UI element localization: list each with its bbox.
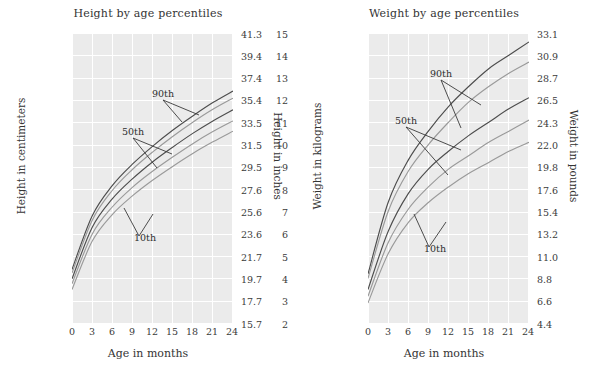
xtick-weight-3: 9 (418, 327, 438, 337)
ytick-right-weight-4: 24.3 (537, 119, 558, 129)
percentile-curve-50th (72, 110, 233, 279)
ytick-left-weight-6: 9 (282, 163, 288, 173)
ytick-right-weight-3: 26.5 (537, 96, 558, 106)
chart-title-weight: Weight by age percentiles (296, 7, 592, 20)
xtick-height-3: 9 (122, 327, 142, 337)
ytick-right-height-5: 31.5 (241, 141, 262, 151)
ytick-right-weight-13: 4.4 (537, 320, 552, 330)
ytick-left-weight-4: 11 (276, 119, 288, 129)
ytick-right-height-11: 19.7 (241, 275, 262, 285)
xtick-height-7: 21 (202, 327, 222, 337)
ytick-right-weight-8: 15.4 (537, 208, 558, 218)
ytick-left-weight-2: 13 (276, 74, 288, 84)
ytick-right-weight-11: 8.8 (537, 275, 552, 285)
ytick-left-weight-8: 7 (282, 208, 288, 218)
xtick-height-8: 24 (222, 327, 242, 337)
annotation-90th-height: 90th (152, 88, 174, 99)
ytick-right-height-3: 35.4 (241, 96, 262, 106)
ytick-right-height-8: 25.6 (241, 208, 262, 218)
xtick-weight-4: 12 (438, 327, 458, 337)
xtick-weight-1: 3 (378, 327, 398, 337)
xtick-height-5: 15 (162, 327, 182, 337)
chart-panel-weight: Weight by age percentiles (296, 0, 592, 377)
ytick-right-weight-9: 13.2 (537, 230, 558, 240)
ytick-right-weight-10: 11.0 (537, 253, 558, 263)
yaxis-label-right-height: Height in inches (272, 91, 284, 221)
growth-charts-figure: Height by age percentiles (0, 0, 592, 377)
percentile-curves-height (72, 33, 233, 323)
xtick-height-2: 6 (102, 327, 122, 337)
percentile-curve-25th (72, 121, 233, 284)
ytick-left-weight-7: 8 (282, 186, 288, 196)
xtick-weight-5: 15 (458, 327, 478, 337)
xtick-height-0: 0 (62, 327, 82, 337)
xtick-height-6: 18 (182, 327, 202, 337)
percentile-curve-25th (368, 120, 529, 296)
ytick-right-weight-2: 28.7 (537, 74, 558, 84)
xtick-weight-2: 6 (398, 327, 418, 337)
ytick-left-weight-5: 10 (276, 141, 288, 151)
ytick-left-weight-9: 6 (282, 230, 288, 240)
ytick-right-height-12: 17.7 (241, 297, 262, 307)
ytick-left-weight-12: 3 (282, 297, 288, 307)
ytick-right-weight-1: 30.9 (537, 52, 558, 62)
ytick-right-height-10: 21.7 (241, 253, 262, 263)
ytick-right-weight-7: 17.6 (537, 186, 558, 196)
ytick-left-weight-0: 15 (276, 30, 288, 40)
xtick-weight-6: 18 (478, 327, 498, 337)
ytick-right-height-4: 33.5 (241, 119, 262, 129)
ytick-right-weight-12: 6.6 (537, 297, 552, 307)
xtick-height-4: 12 (142, 327, 162, 337)
ytick-right-height-2: 37.4 (241, 74, 262, 84)
xaxis-label-height: Age in months (0, 347, 296, 360)
xtick-weight-0: 0 (358, 327, 378, 337)
ytick-right-height-6: 29.5 (241, 163, 262, 173)
ytick-right-height-0: 41.3 (241, 30, 262, 40)
percentile-curve-10th (72, 131, 233, 289)
chart-panel-height: Height by age percentiles (0, 0, 296, 377)
ytick-left-weight-1: 14 (276, 52, 288, 62)
annotation-90th-weight: 90th (430, 68, 452, 79)
yaxis-label-left-height: Height in centimeters (15, 91, 27, 221)
ytick-right-height-7: 27.6 (241, 186, 262, 196)
yaxis-label-right-weight: Weight in pounds (568, 91, 580, 221)
ytick-right-weight-6: 19.8 (537, 163, 558, 173)
ytick-left-weight-13: 2 (282, 320, 288, 330)
xtick-height-1: 3 (82, 327, 102, 337)
ytick-left-weight-3: 12 (276, 96, 288, 106)
ytick-right-height-1: 39.4 (241, 52, 262, 62)
ytick-right-weight-0: 33.1 (537, 30, 558, 40)
ytick-left-weight-10: 5 (282, 253, 288, 263)
annotation-10th-weight: 10th (424, 243, 446, 254)
ytick-left-weight-11: 4 (282, 275, 288, 285)
ytick-right-height-13: 15.7 (241, 320, 262, 330)
chart-title-height: Height by age percentiles (0, 7, 296, 20)
xtick-weight-8: 24 (518, 327, 538, 337)
annotation-50th-weight: 50th (395, 115, 417, 126)
plot-area-height (72, 33, 233, 323)
ytick-right-weight-5: 22.0 (537, 141, 558, 151)
percentile-curve-90th (72, 98, 233, 273)
annotation-10th-height: 10th (134, 232, 156, 243)
yaxis-label-left-weight: Weight in kilograms (311, 91, 323, 221)
xtick-weight-7: 21 (498, 327, 518, 337)
ytick-right-height-9: 23.6 (241, 230, 262, 240)
xaxis-label-weight: Age in months (296, 347, 592, 360)
annotation-50th-height: 50th (122, 126, 144, 137)
